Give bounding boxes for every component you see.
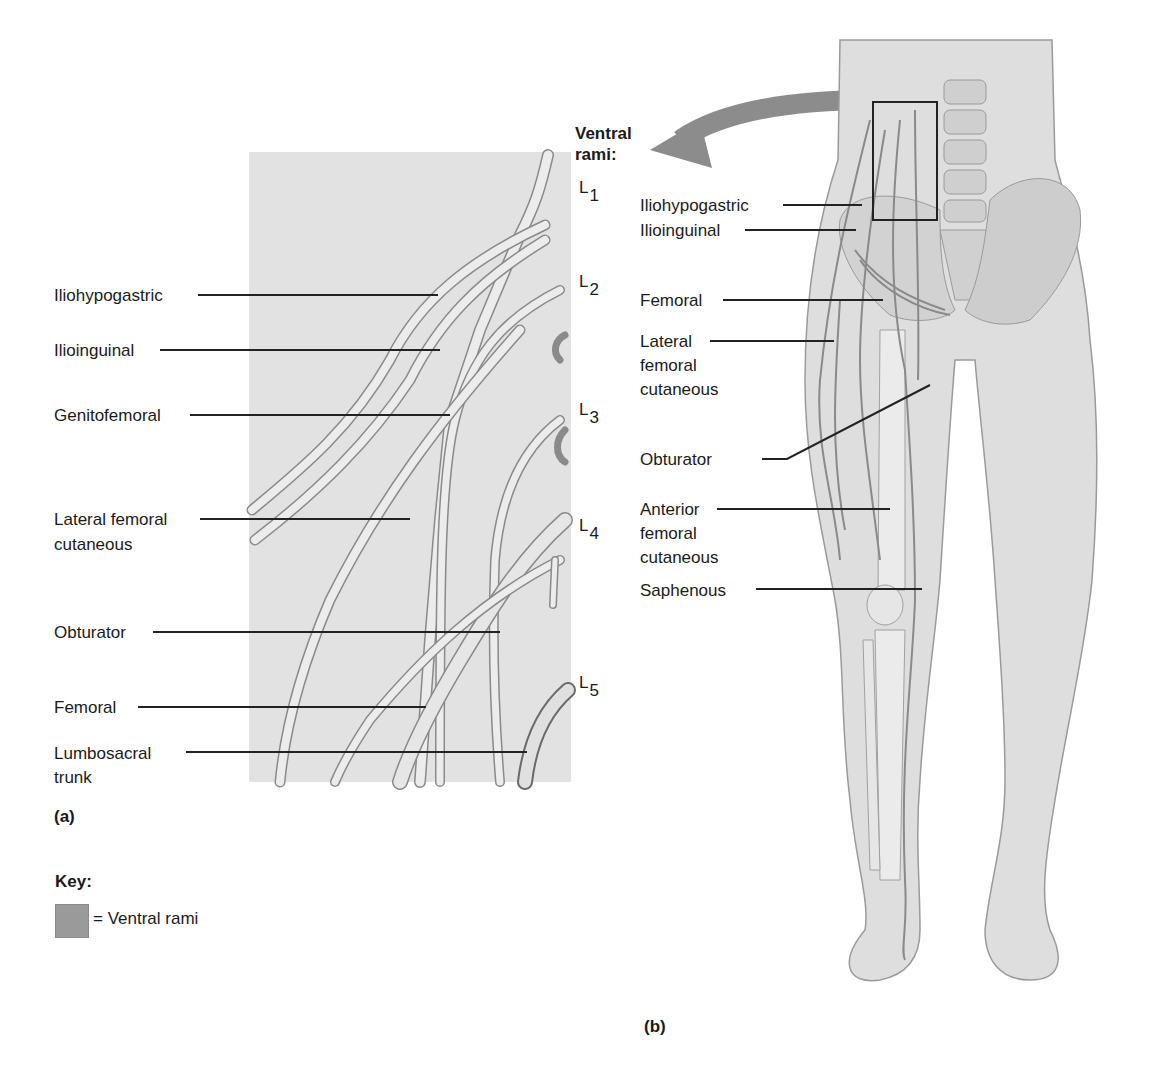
key-entry-ventral-rami: = Ventral rami (93, 908, 198, 929)
label-lateral-femoral-cutaneous-a-line2: cutaneous (54, 534, 132, 555)
label-obturator-a: Obturator (54, 622, 126, 643)
label-lumbosacral-trunk-a-line2: trunk (54, 767, 92, 788)
panel-a-nerves (252, 155, 568, 782)
ventral-rami-heading-line1: Ventral (575, 123, 632, 144)
body-figure (805, 40, 1097, 981)
label-femoral-b: Femoral (640, 290, 702, 311)
segment-label-l4: L4 (579, 516, 599, 544)
label-lateral-femoral-cutaneous-b-line3: cutaneous (640, 379, 718, 400)
label-lateral-femoral-cutaneous-b-line2: femoral (640, 355, 697, 376)
caption-a: (a) (54, 806, 75, 827)
label-iliohypogastric-b: Iliohypogastric (640, 195, 749, 216)
label-anterior-femoral-cutaneous-b: Anterior (640, 499, 700, 520)
label-lateral-femoral-cutaneous-a: Lateral femoral (54, 509, 167, 530)
caption-b: (b) (644, 1016, 666, 1037)
segment-label-l5: L5 (579, 673, 599, 701)
label-ilioinguinal-a: Ilioinguinal (54, 340, 134, 361)
segment-label-l2: L2 (579, 272, 599, 300)
segment-label-l3: L3 (579, 400, 599, 428)
label-lateral-femoral-cutaneous-b: Lateral (640, 331, 692, 352)
key-swatch-ventral-rami (55, 904, 89, 938)
label-iliohypogastric-a: Iliohypogastric (54, 285, 163, 306)
label-obturator-b: Obturator (640, 449, 712, 470)
label-ilioinguinal-b: Ilioinguinal (640, 220, 720, 241)
label-anterior-femoral-cutaneous-b-line2: femoral (640, 523, 697, 544)
ventral-rami-heading-line2: rami: (575, 144, 617, 165)
label-anterior-femoral-cutaneous-b-line3: cutaneous (640, 547, 718, 568)
key-title: Key: (55, 871, 92, 892)
segment-label-l1: L1 (579, 178, 599, 206)
label-lumbosacral-trunk-a: Lumbosacral (54, 743, 151, 764)
label-saphenous-b: Saphenous (640, 580, 726, 601)
label-femoral-a: Femoral (54, 697, 116, 718)
label-genitofemoral-a: Genitofemoral (54, 405, 161, 426)
